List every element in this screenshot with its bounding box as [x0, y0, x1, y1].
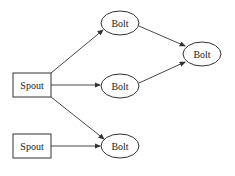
- edge-bolt-top-bolt-right: [139, 26, 185, 46]
- spout-label-2: Spout: [20, 141, 44, 152]
- bolt-label-mid: Bolt: [111, 81, 128, 92]
- edge-spout1-bolt-bot: [51, 97, 104, 139]
- bolt-label-top: Bolt: [111, 18, 128, 29]
- topology-diagram: Spout Spout Bolt Bolt Bolt Bolt: [0, 0, 235, 176]
- edge-spout1-bolt-top: [51, 30, 103, 73]
- bolt-label-right: Bolt: [193, 49, 210, 60]
- spout-label-1: Spout: [20, 80, 44, 91]
- bolt-label-bottom: Bolt: [111, 141, 128, 152]
- edge-bolt-mid-bolt-right: [139, 62, 185, 83]
